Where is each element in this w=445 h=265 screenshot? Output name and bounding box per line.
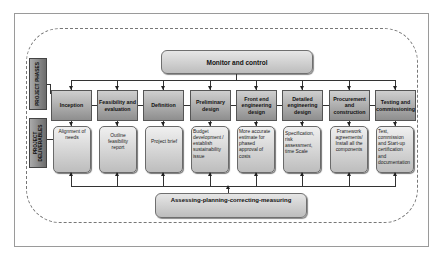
phase-box: Front end engineering design [236, 90, 277, 121]
arrow-up-icon [300, 172, 304, 176]
monitor-and-control-box: Monitor and control [161, 50, 313, 74]
assessing-planning-box: Assessing-planning-correcting-measuring [155, 193, 307, 218]
phase-box: Testing and commissioning [375, 90, 416, 121]
connector-line [138, 105, 143, 106]
arrow-up-icon [115, 172, 119, 176]
connector-line [184, 105, 190, 106]
arrow-up-icon [347, 172, 351, 176]
arrow-up-icon [393, 172, 397, 176]
arrow-up-icon [226, 185, 230, 189]
deliverable-box: Alignment of needs [53, 126, 91, 173]
arrow-up-icon [208, 172, 212, 176]
project-phases-text: PROJECT PHASES [35, 62, 40, 106]
deliverable-box: Specification, risk assessment, time Sca… [283, 126, 321, 173]
phase-box: Inception [51, 90, 92, 121]
arrow-up-icon [161, 172, 165, 176]
connector-line [231, 105, 236, 106]
deliverable-box: More accurate estimate for phased approv… [237, 126, 275, 173]
arrow-up-icon [254, 172, 258, 176]
phase-box: Detailed engineering design [282, 90, 323, 121]
connector-line [370, 105, 375, 106]
project-deliverables-label: PROJECTDELIVERABLES [29, 118, 47, 168]
connector-line [92, 105, 97, 106]
deliverable-box: Project brief [145, 126, 183, 173]
deliverable-box: Test, commission and Start-up certificat… [376, 126, 414, 173]
phase-box: Preliminary design [190, 90, 231, 121]
connector-line [323, 105, 329, 106]
phase-box: Feasibility and evaluation [97, 90, 138, 121]
deliverable-box: Framework agreements/ Install all the co… [330, 126, 368, 173]
project-phases-label: PROJECT PHASES [29, 58, 47, 110]
connector-line [277, 105, 282, 106]
phase-box: Procurement and construction [329, 90, 370, 121]
project-deliverables-text: PROJECTDELIVERABLES [33, 124, 44, 161]
top-bus-line [71, 80, 396, 81]
deliverable-box: Outline feasibility report [99, 126, 137, 173]
arrow-up-icon [69, 172, 73, 176]
bottom-bus-line [71, 186, 396, 187]
deliverable-box: Budget development / establish sustainab… [191, 126, 229, 173]
phase-box: Definition [143, 90, 184, 121]
